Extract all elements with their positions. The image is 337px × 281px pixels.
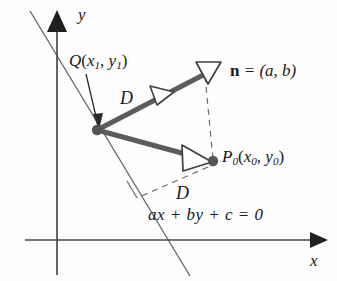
point-p0-name: P <box>222 147 232 166</box>
line-equation-label: ax + by + c = 0 <box>148 206 264 223</box>
distance-label-lower: D <box>176 184 189 202</box>
normal-vector-equation: = (a, b) <box>239 61 296 80</box>
dashed-perpendicular-tick <box>127 181 137 198</box>
point-q-dot <box>92 125 102 135</box>
point-p0-label: P0(x0, y0) <box>222 148 284 167</box>
diagram-canvas <box>0 0 337 281</box>
point-q-name: Q <box>69 51 81 70</box>
y-axis-arrowhead-icon <box>47 10 67 32</box>
normal-vector-label: n = (a, b) <box>230 62 296 79</box>
y-axis-label: y <box>78 6 86 23</box>
point-p0-dot <box>208 156 218 166</box>
point-q-label: Q(x1, y1) <box>69 52 127 71</box>
distance-label-upper: D <box>120 89 133 107</box>
vector-normal-shaft <box>97 73 207 130</box>
x-axis-arrowhead-icon <box>310 232 328 248</box>
x-axis-label: x <box>310 252 318 269</box>
vector-normal-tip-arrowhead-icon <box>196 62 221 84</box>
dashed-vector-tip-to-p0 <box>205 76 213 159</box>
dashed-p0-to-line-foot <box>137 167 208 198</box>
geometry-figure: y x Q(x1, y1) P0(x0, y0) n = (a, b) D D … <box>0 0 337 281</box>
